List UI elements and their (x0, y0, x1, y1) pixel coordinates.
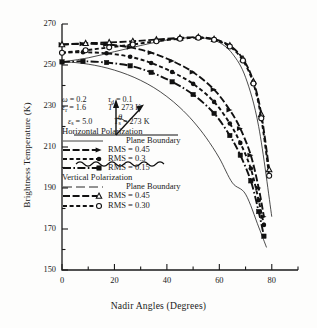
legend-key (62, 182, 104, 191)
legend-item-label: RMS = 0.45 (104, 191, 150, 200)
legend: ω = 0.2τd = 0.1εr = 1.6T = 273 Kεs = 5.0… (62, 96, 214, 210)
legend-line-sample (62, 201, 104, 210)
legend-line-sample (62, 154, 104, 163)
legend-line-sample (62, 145, 104, 154)
parameter-row: εs = 5.0Ts = 273 K (68, 118, 214, 126)
y-tick-label: 190 (26, 183, 56, 192)
x-tick-label: 20 (102, 276, 126, 285)
y-tick-label: 230 (26, 101, 56, 110)
legend-line-sample (62, 191, 104, 200)
legend-item-label: RMS = 0.15 (104, 163, 150, 172)
legend-item[interactable]: RMS = 0.30 (62, 200, 214, 209)
parameter-row: εr = 1.6T = 273 K (62, 104, 214, 112)
legend-item-label: RMS = 0.30 (104, 201, 150, 210)
parameter-left: εr = 1.6 (62, 104, 108, 112)
y-tick-label: 170 (26, 224, 56, 233)
parameter-right: Ts = 273 K (114, 118, 149, 126)
x-tick-label: 0 (50, 276, 74, 285)
legend-line-sample (62, 163, 104, 172)
parameter-left: εs = 5.0 (68, 118, 114, 126)
y-tick-label: 150 (26, 265, 56, 274)
x-tick-label: 40 (155, 276, 179, 285)
legend-key (62, 163, 104, 172)
legend-key (62, 145, 104, 154)
y-tick-label: 270 (26, 19, 56, 28)
y-tick-label: 250 (26, 60, 56, 69)
y-tick-label: 210 (26, 142, 56, 151)
legend-key (62, 191, 104, 200)
parameter-right: T = 273 K (108, 104, 141, 112)
legend-line-sample (62, 182, 104, 191)
legend-item[interactable]: RMS = 0.15 (62, 163, 214, 172)
legend-line-sample (62, 136, 104, 145)
x-tick-label: 60 (207, 276, 231, 285)
legend-key (62, 201, 104, 210)
chart-figure: Brightness Temperature (K) Nadir Angles … (0, 0, 317, 328)
x-tick-label: 80 (260, 276, 284, 285)
legend-key (62, 154, 104, 163)
legend-key (62, 136, 104, 145)
